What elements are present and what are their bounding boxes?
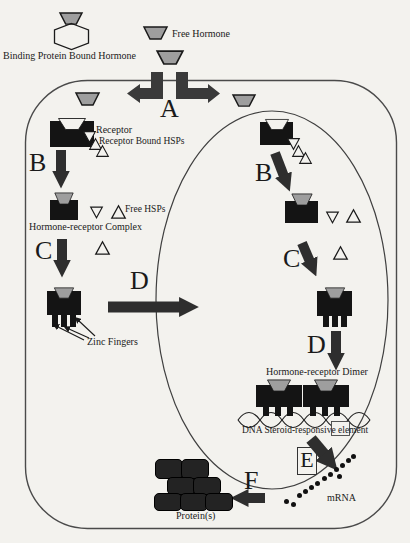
zinc-finger-icon [334, 407, 340, 416]
hormone-in-cytoplasm-icon [75, 92, 100, 106]
mrna-dot-icon [340, 463, 345, 468]
mrna-dot-icon [297, 493, 302, 498]
bound-hormone-icon [324, 287, 345, 299]
binding-protein-hexagon-icon [54, 23, 89, 50]
hormone-in-cytoplasm-icon [232, 94, 256, 107]
activated-receptor-shape [47, 291, 81, 315]
receptor-binding-pocket-icon [265, 119, 289, 130]
mrna-dot-icon [315, 481, 320, 486]
zinc-finger-icon [61, 315, 67, 327]
free-hormone-icon [143, 26, 168, 40]
protein-subunit-icon [205, 493, 233, 511]
free-hormone-label: Free Hormone [172, 28, 230, 39]
mrna-dot-icon [291, 502, 296, 507]
hsp-triangle-down-icon [326, 211, 339, 224]
zinc-finger-pointer-3-icon [79, 321, 95, 336]
zinc-finger-icon [322, 407, 328, 416]
mrna-label: mRNA [327, 492, 356, 503]
protein-subunit-icon [181, 459, 209, 479]
mrna-dot-icon [309, 485, 314, 490]
hsp-triangle-up-icon [96, 145, 109, 157]
membrane-channel-arrow-right-icon [176, 72, 220, 103]
hormone-receptor-complex-shape [50, 200, 78, 220]
proteins-label: Protein(s) [176, 510, 215, 521]
hsp-triangle-up-icon [111, 205, 126, 219]
step-d-left-letter: D [130, 268, 149, 294]
mrna-dot-icon [284, 499, 289, 504]
mrna-dot-icon [346, 458, 351, 463]
protein-subunit-icon [154, 493, 182, 511]
arrow-b-right-icon [275, 153, 285, 179]
protein-subunit-icon [155, 459, 183, 479]
zinc-fingers-label: Zinc Fingers [87, 336, 138, 347]
mrna-dot-icon [337, 474, 342, 479]
hsp-triangle-up-icon [95, 241, 110, 255]
step-f-letter: F [244, 468, 258, 494]
mrna-dot-icon [351, 454, 356, 459]
mrna-dot-icon [328, 472, 333, 477]
activated-receptor-shape [317, 291, 352, 316]
free-hormone-icon [156, 50, 184, 65]
bound-hormone-icon [291, 193, 313, 206]
hormone-receptor-complex-label: Hormone-receptor Complex [29, 221, 142, 232]
mrna-dot-icon [303, 489, 308, 494]
zinc-finger-icon [287, 407, 293, 416]
zinc-finger-icon [275, 407, 281, 416]
hsp-triangle-up-icon [333, 246, 348, 260]
bound-hormone-icon [267, 379, 292, 392]
bound-hormone-icon [314, 379, 339, 392]
step-b-right-letter: B [255, 160, 272, 186]
zinc-finger-icon [310, 407, 316, 416]
hsp-triangle-up-icon [346, 209, 361, 223]
free-hsps-label: Free HSPs [125, 204, 165, 214]
membrane-channel-arrow-left-icon [127, 72, 163, 103]
zinc-finger-icon [52, 315, 58, 327]
hsp-triangle-down-icon [90, 206, 103, 219]
step-c-right-letter: C [283, 246, 300, 272]
receptor-label: Receptor [96, 124, 132, 135]
dimer-unit-shape [256, 385, 302, 407]
step-c-left-letter: C [35, 238, 52, 264]
hormone-receptor-complex-shape [285, 201, 318, 223]
receptor-binding-pocket-icon [58, 118, 86, 130]
hormone-receptor-dimer-label: Hormone-receptor Dimer [266, 366, 368, 377]
step-a-letter: A [160, 96, 179, 122]
receptor-bound-hsps-label: Receptor Bound HSPs [99, 136, 185, 146]
hsp-triangle-up-icon [299, 152, 312, 164]
mrna-dot-icon [334, 467, 339, 472]
bound-hormone-icon [54, 287, 75, 299]
step-e-letter: E [297, 449, 317, 471]
zinc-finger-icon [323, 316, 329, 327]
mrna-dot-icon [322, 476, 327, 481]
zinc-finger-icon [263, 407, 269, 416]
protein-subunit-icon [180, 493, 208, 511]
binding-protein-label: Binding Protein Bound Hormone [3, 50, 136, 61]
step-d-right-letter: D [307, 332, 326, 358]
zinc-finger-icon [332, 316, 338, 327]
steroid-hormone-pathway-diagram: Binding Protein Bound Hormone Free Hormo… [0, 0, 410, 543]
dna-element-label: DNA Steroid-responsive element [242, 425, 368, 435]
arrow-c-right-icon [302, 243, 311, 264]
dimer-unit-shape [303, 385, 349, 407]
zinc-finger-icon [70, 315, 76, 327]
zinc-finger-icon [341, 316, 347, 327]
step-b-left-letter: B [29, 150, 46, 176]
bound-hormone-icon [54, 192, 74, 205]
